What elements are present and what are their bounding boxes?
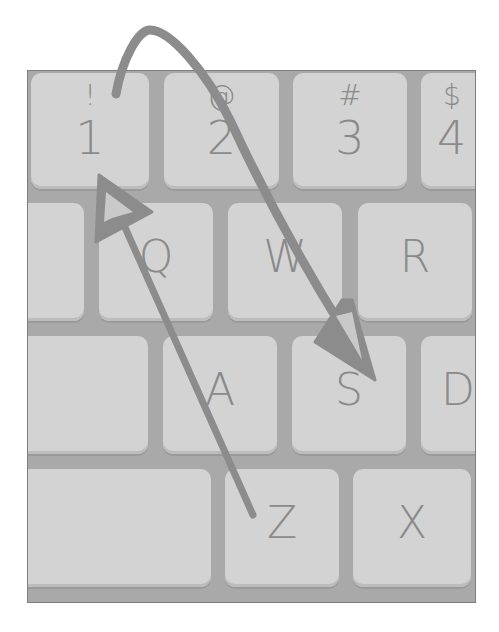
key-q[interactable]: Q xyxy=(99,203,213,321)
key-x[interactable]: X xyxy=(353,469,471,587)
key-a[interactable]: A xyxy=(163,336,277,454)
key-3-shift-label: # xyxy=(293,79,407,112)
key-w[interactable]: W xyxy=(228,203,342,321)
key-r-label: R xyxy=(358,231,472,282)
key-4-shift-label: $ xyxy=(443,79,476,112)
key-2[interactable]: @ 2 xyxy=(164,73,279,189)
key-q-label: Q xyxy=(99,231,213,282)
key-shift[interactable] xyxy=(27,469,211,587)
key-2-label: 2 xyxy=(164,111,279,165)
key-2-shift-label: @ xyxy=(164,79,279,112)
key-s-label: S xyxy=(292,364,406,415)
key-z-label: Z xyxy=(225,497,339,548)
key-1[interactable]: ! 1 xyxy=(31,73,149,189)
key-r[interactable]: R xyxy=(358,203,472,321)
key-x-label: X xyxy=(353,497,471,548)
key-s[interactable]: S xyxy=(292,336,406,454)
key-1-label: 1 xyxy=(31,111,149,165)
key-w-label: W xyxy=(228,231,342,282)
key-3-label: 3 xyxy=(293,111,407,165)
keyboard-frame: ! 1 @ 2 # 3 $ 4 Q W R A S D Z X xyxy=(27,70,476,603)
key-4-label: 4 xyxy=(437,111,476,165)
key-tab[interactable] xyxy=(27,203,84,321)
key-3[interactable]: # 3 xyxy=(293,73,407,189)
key-1-shift-label: ! xyxy=(31,79,149,112)
key-4[interactable]: $ 4 xyxy=(421,73,476,189)
key-z[interactable]: Z xyxy=(225,469,339,587)
key-caps[interactable] xyxy=(27,336,148,454)
key-d-label: D xyxy=(441,364,476,415)
key-a-label: A xyxy=(163,364,277,415)
key-d[interactable]: D xyxy=(421,336,476,454)
